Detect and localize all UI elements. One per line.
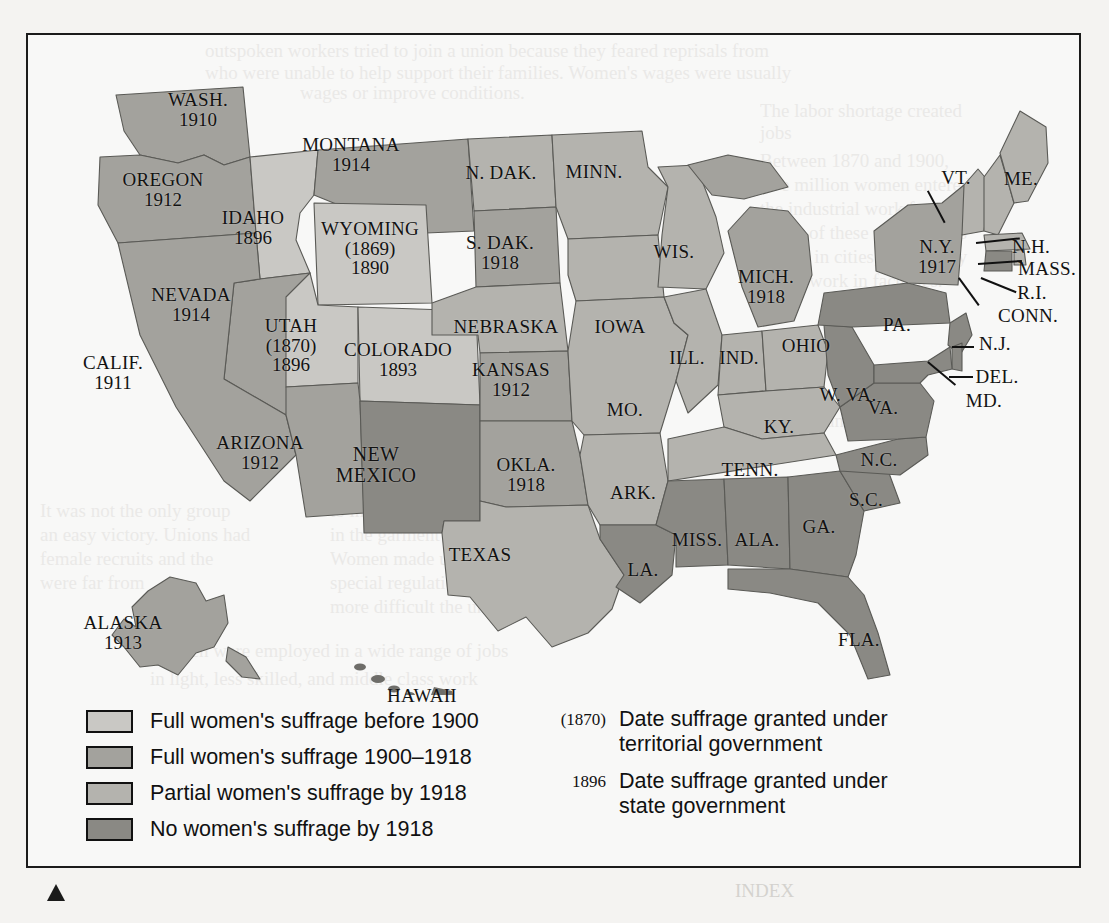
legend-note-state-line2: state government xyxy=(619,794,785,818)
state-label-missouri: MO. xyxy=(607,400,643,420)
state-abbr: ARK. xyxy=(610,483,656,503)
state-abbr: IND. xyxy=(719,348,759,368)
legend-label-partial-by-1918: Partial women's suffrage by 1918 xyxy=(150,781,467,806)
state-label-rhode-island: R.I. xyxy=(1017,283,1047,303)
map-figure-frame: WASH.1910OREGON1912IDAHO1896MONTANA1914W… xyxy=(26,33,1081,868)
state-abbr: CALIF. xyxy=(83,353,143,373)
legend-note-territorial: (1870) Date suffrage granted under terri… xyxy=(528,707,888,758)
state-year: 1912 xyxy=(216,453,304,473)
legend-label-full-1900-1918: Full women's suffrage 1900–1918 xyxy=(150,745,472,770)
state-label-alaska: ALASKA1913 xyxy=(84,613,163,652)
state-label-idaho: IDAHO1896 xyxy=(222,208,285,247)
state-year: 1918 xyxy=(496,475,555,495)
state-abbr: W. VA. xyxy=(820,385,877,405)
legend-swatch-none-by-1918 xyxy=(86,818,133,841)
state-abbr: NEBRASKA xyxy=(454,317,559,337)
showthrough-line-23: INDEX xyxy=(735,880,794,902)
state-abbr: ALASKA xyxy=(84,613,163,633)
state-year: 1914 xyxy=(151,305,231,325)
legend-note-sample-state: 1896 xyxy=(528,769,606,792)
state-label-new-hampshire: N.H. xyxy=(1012,237,1050,257)
state-abbr: N.J. xyxy=(979,334,1011,354)
state-shape-alaska-panhandle xyxy=(226,647,260,679)
state-abbr: COLORADO xyxy=(344,340,452,360)
state-abbr: KANSAS xyxy=(472,360,550,380)
state-shape-texas xyxy=(442,501,624,647)
state-label-new-mexico: NEWMEXICO xyxy=(336,444,417,485)
state-label-kentucky: KY. xyxy=(764,417,795,437)
state-shape-florida xyxy=(728,569,890,679)
legend-note-state-line1: Date suffrage granted under xyxy=(619,769,888,793)
state-label-colorado: COLORADO1893 xyxy=(344,340,452,379)
state-abbr: NEW xyxy=(336,444,417,465)
state-label-alabama: ALA. xyxy=(735,530,780,550)
state-abbr: VT. xyxy=(941,168,971,188)
legend-row-0: Full women's suffrage before 1900 xyxy=(86,709,479,734)
state-label-iowa: IOWA xyxy=(595,317,646,337)
leader-line-nj xyxy=(952,346,974,348)
state-abbr: MD. xyxy=(966,391,1002,411)
state-label-california: CALIF.1911 xyxy=(83,353,143,392)
legend-row-1: Full women's suffrage 1900–1918 xyxy=(86,745,472,770)
state-label-oklahoma: OKLA.1918 xyxy=(496,455,555,494)
legend-row-3: No women's suffrage by 1918 xyxy=(86,817,433,842)
state-abbr: OHIO xyxy=(782,336,831,356)
page-marker-triangle-icon xyxy=(47,884,65,901)
state-label-nebraska: NEBRASKA xyxy=(454,317,559,337)
state-abbr: R.I. xyxy=(1017,283,1047,303)
state-year: 1896 xyxy=(222,228,285,248)
state-label-west-virginia: W. VA. xyxy=(820,385,877,405)
state-abbr: KY. xyxy=(764,417,795,437)
state-abbr: TEXAS xyxy=(449,545,512,565)
state-abbr: OREGON xyxy=(123,170,204,190)
state-label-illinois: ILL. xyxy=(669,348,705,368)
state-abbr: ME. xyxy=(1004,169,1038,189)
state-year: 1914 xyxy=(302,155,400,175)
state-abbr: MASS. xyxy=(1018,259,1076,279)
state-shape-iowa xyxy=(568,235,664,301)
state-abbr: WIS. xyxy=(654,242,695,262)
state-abbr-2: MEXICO xyxy=(336,465,417,486)
state-abbr: MISS. xyxy=(672,530,723,550)
legend-note-territorial-line2: territorial government xyxy=(619,732,822,756)
state-abbr: MINN. xyxy=(566,162,623,182)
state-abbr: DEL. xyxy=(976,367,1019,387)
state-abbr: ILL. xyxy=(669,348,705,368)
state-abbr: FLA. xyxy=(838,630,880,650)
state-abbr: MO. xyxy=(607,400,643,420)
state-year: 1917 xyxy=(918,257,956,277)
state-abbr: WYOMING xyxy=(321,219,419,239)
state-abbr: GA. xyxy=(802,517,835,537)
state-abbr: LA. xyxy=(628,560,659,580)
state-abbr: PA. xyxy=(883,315,911,335)
state-abbr: UTAH xyxy=(265,316,317,336)
state-abbr: CONN. xyxy=(998,306,1058,326)
state-abbr: S. DAK. xyxy=(466,233,534,253)
legend-note-text-state: Date suffrage granted under state govern… xyxy=(619,769,888,820)
state-label-nevada: NEVADA1914 xyxy=(151,285,231,324)
state-label-utah: UTAH(1870)1896 xyxy=(265,316,317,375)
state-label-georgia: GA. xyxy=(802,517,835,537)
state-label-michigan: MICH.1918 xyxy=(738,267,794,306)
state-label-south-carolina: S.C. xyxy=(849,490,883,510)
state-year: 1918 xyxy=(738,287,794,307)
legend-label-full-before-1900: Full women's suffrage before 1900 xyxy=(150,709,479,734)
legend-note-sample-territorial: (1870) xyxy=(528,707,606,730)
state-label-new-jersey: N.J. xyxy=(979,334,1011,354)
state-label-ohio: OHIO xyxy=(782,336,831,356)
leader-line-del xyxy=(949,376,973,378)
state-abbr: HAWAII xyxy=(387,686,457,706)
state-year: 1912 xyxy=(472,380,550,400)
state-abbr: S.C. xyxy=(849,490,883,510)
state-shape-arkansas xyxy=(580,433,668,525)
legend-swatch-full-1900-1918 xyxy=(86,746,133,769)
state-label-hawaii: HAWAII xyxy=(387,686,457,706)
state-label-mississippi: MISS. xyxy=(672,530,723,550)
state-label-oregon: OREGON1912 xyxy=(123,170,204,209)
state-label-south-dakota: S. DAK.1918 xyxy=(466,233,534,272)
state-label-washington: WASH.1910 xyxy=(168,90,228,129)
state-abbr: ALA. xyxy=(735,530,780,550)
state-abbr: MONTANA xyxy=(302,135,400,155)
state-label-maryland: MD. xyxy=(966,391,1002,411)
state-abbr: IOWA xyxy=(595,317,646,337)
